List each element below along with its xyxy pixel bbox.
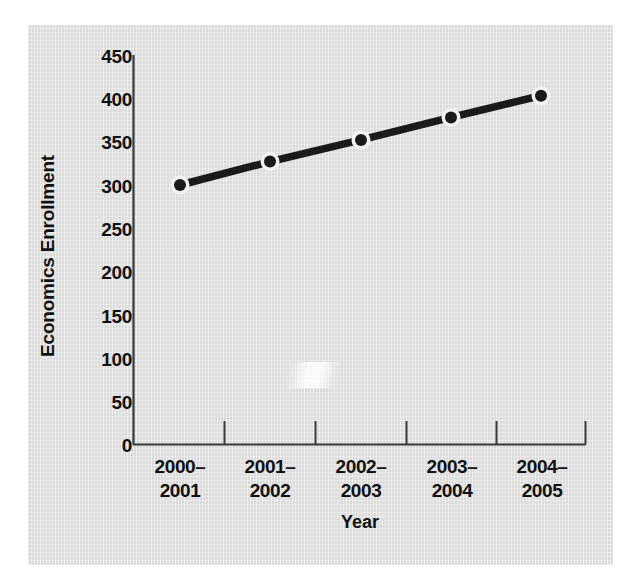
x-tick-label-0-line1: 2000– — [132, 455, 228, 479]
x-tick-label-4-line2: 2005 — [494, 479, 590, 503]
x-tick-label-3-line2: 2004 — [404, 479, 500, 503]
data-point-0: 2000–2001: 300 — [174, 179, 186, 191]
chart-figure: 450 400 350 300 250 200 150 100 50 0 Eco… — [0, 0, 626, 579]
data-point-2: 2002–2003: 352 — [355, 134, 367, 146]
x-tick-label-1-line2: 2002 — [222, 479, 318, 503]
x-tick-label-4: 2004– 2005 — [494, 455, 590, 504]
x-tick-label-4-line1: 2004– — [494, 455, 590, 479]
x-tick-label-2-line2: 2003 — [313, 479, 409, 503]
data-point-1: 2001–2002: 327 — [264, 156, 276, 168]
x-tick-label-2: 2002– 2003 — [313, 455, 409, 504]
x-tick-label-0: 2000– 2001 — [132, 455, 228, 504]
x-tick-label-3: 2003– 2004 — [404, 455, 500, 504]
x-axis-title: Year — [300, 512, 420, 533]
x-tick-label-2-line1: 2002– — [313, 455, 409, 479]
x-tick-label-1: 2001– 2002 — [222, 455, 318, 504]
series-markers: 2000–2001: 3002001–2002: 3272002–2003: 3… — [171, 86, 551, 194]
data-point-4: 2004–2005: 403 — [535, 90, 547, 102]
x-tick-label-1-line1: 2001– — [222, 455, 318, 479]
data-point-3: 2003–2004: 378 — [445, 111, 457, 123]
x-tick-label-3-line1: 2003– — [404, 455, 500, 479]
x-tick-label-0-line2: 2001 — [132, 479, 228, 503]
